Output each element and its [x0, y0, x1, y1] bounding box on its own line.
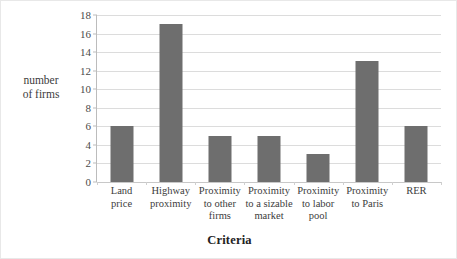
plot-area: 024681012141618 — [97, 15, 441, 182]
x-axis-category-labels: LandpriceHighwayproximityProximityto oth… — [97, 185, 441, 235]
x-axis-category-label: Proximityto Paris — [343, 185, 392, 210]
x-axis-category-label: RER — [392, 185, 441, 198]
category-label-line: Land — [97, 185, 146, 198]
gridline — [97, 182, 441, 183]
category-label-line: price — [97, 198, 146, 211]
bar-slot — [343, 15, 392, 182]
category-label-line: Proximity — [343, 185, 392, 198]
bar[interactable] — [356, 61, 379, 182]
bars-group — [97, 15, 441, 182]
category-label-line: Highway — [146, 185, 195, 198]
x-axis-title: Criteria — [1, 233, 457, 248]
x-axis-category-label: Proximityto otherfirms — [195, 185, 244, 223]
category-label-line: to Paris — [343, 198, 392, 211]
x-axis-category-label: Landprice — [97, 185, 146, 210]
x-tick-mark — [441, 182, 442, 185]
category-label-line: proximity — [146, 198, 195, 211]
category-label-line: Proximity — [244, 185, 293, 198]
bar-slot — [97, 15, 146, 182]
bar[interactable] — [208, 136, 231, 182]
bar-chart-figure: number of firms 024681012141618 Landpric… — [0, 0, 457, 259]
y-tick-label: 14 — [80, 47, 91, 58]
bar-slot — [195, 15, 244, 182]
category-label-line: to other — [195, 198, 244, 211]
bar-slot — [244, 15, 293, 182]
y-tick-label: 6 — [86, 121, 92, 132]
bar[interactable] — [159, 24, 182, 182]
bar[interactable] — [405, 126, 428, 182]
y-tick-label: 8 — [86, 102, 92, 113]
y-axis-title-line-1: number — [5, 73, 77, 87]
x-axis-category-label: Proximityto a sizablemarket — [244, 185, 293, 223]
y-tick-label: 16 — [80, 28, 91, 39]
category-label-line: to labor — [294, 198, 343, 211]
x-axis-category-label: Proximityto laborpool — [294, 185, 343, 223]
category-label-line: pool — [294, 210, 343, 223]
y-axis-title: number of firms — [5, 73, 77, 101]
y-tick-label: 18 — [80, 10, 91, 21]
category-label-line: market — [244, 210, 293, 223]
category-label-line: Proximity — [294, 185, 343, 198]
bar-slot — [392, 15, 441, 182]
bar[interactable] — [257, 136, 280, 182]
bar[interactable] — [110, 126, 133, 182]
x-axis-category-label: Highwayproximity — [146, 185, 195, 210]
y-axis-title-line-2: of firms — [5, 87, 77, 101]
y-tick-label: 2 — [86, 158, 92, 169]
bar-slot — [146, 15, 195, 182]
y-tick-label: 0 — [86, 177, 92, 188]
category-label-line: to a sizable — [244, 198, 293, 211]
bar-slot — [294, 15, 343, 182]
y-tick-label: 4 — [86, 139, 92, 150]
category-label-line: firms — [195, 210, 244, 223]
category-label-line: RER — [392, 185, 441, 198]
y-tick-label: 12 — [80, 65, 91, 76]
y-tick-label: 10 — [80, 84, 91, 95]
bar[interactable] — [307, 154, 330, 182]
category-label-line: Proximity — [195, 185, 244, 198]
